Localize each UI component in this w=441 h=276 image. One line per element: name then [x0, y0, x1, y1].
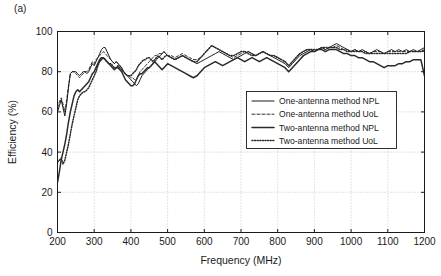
- y-tick-label: 60: [41, 106, 53, 117]
- x-tick-label: 1200: [413, 236, 436, 247]
- x-tick-label: 500: [159, 236, 176, 247]
- y-axis-title: Efficiency (%): [6, 100, 18, 164]
- legend-label-1: One-antenna method NPL: [279, 96, 380, 106]
- legend-label-3: Two-antenna method NPL: [279, 123, 379, 133]
- x-tick-label: 300: [86, 236, 103, 247]
- y-tick-label: 100: [36, 26, 53, 37]
- efficiency-vs-frequency-chart: 2003004005006007008009001000110012000204…: [0, 0, 441, 276]
- legend-label-2: One-antenna method UoL: [279, 109, 379, 119]
- y-tick-label: 40: [41, 147, 53, 158]
- x-tick-label: 1000: [340, 236, 363, 247]
- x-tick-label: 800: [269, 236, 286, 247]
- chart-legend[interactable]: One-antenna method NPLOne-antenna method…: [247, 92, 397, 149]
- x-tick-label: 400: [123, 236, 140, 247]
- x-tick-label: 1100: [377, 236, 399, 247]
- x-tick-label: 700: [233, 236, 250, 247]
- figure-container: (a) 200300400500600700800900100011001200…: [0, 0, 441, 276]
- legend-label-4: Two-antenna method UoL: [279, 136, 378, 146]
- y-tick-label: 20: [41, 187, 53, 198]
- y-tick-label: 0: [47, 227, 53, 238]
- x-tick-label: 900: [306, 236, 323, 247]
- x-axis-title: Frequency (MHz): [200, 254, 281, 266]
- x-tick-label: 600: [196, 236, 213, 247]
- y-tick-label: 80: [41, 66, 53, 77]
